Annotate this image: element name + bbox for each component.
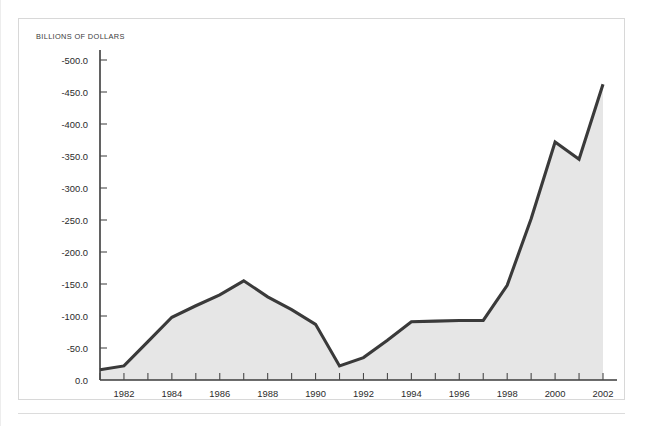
y-axis-tick-label: -350.0 xyxy=(61,151,88,162)
y-tick-group xyxy=(100,60,107,348)
y-axis-tick-label: -200.0 xyxy=(61,247,88,258)
y-axis-tick-label: -450.0 xyxy=(61,87,88,98)
y-axis-tick-label: -50.0 xyxy=(67,343,88,354)
y-axis-tick-label: -300.0 xyxy=(61,183,88,194)
x-axis-tick-label: 1990 xyxy=(305,388,326,399)
chart-plot-area: BILLIONS OF DOLLARS -500.0-450.0-400.0-3… xyxy=(18,18,625,400)
x-axis-tick-label: 1996 xyxy=(449,388,470,399)
y-axis-tick-label: -500.0 xyxy=(61,55,88,66)
x-axis-tick-label: 1986 xyxy=(209,388,230,399)
x-axis-tick-label: 1984 xyxy=(161,388,182,399)
y-axis-tick-label: 0.0 xyxy=(75,375,88,386)
x-axis-tick-label: 1998 xyxy=(497,388,518,399)
page-divider-rule xyxy=(18,413,625,414)
x-axis-tick-label: 1982 xyxy=(114,388,135,399)
x-tick-label-group: 1982198419861988199019921994199619982000… xyxy=(114,388,614,399)
chart-page: BILLIONS OF DOLLARS -500.0-450.0-400.0-3… xyxy=(0,0,647,426)
y-axis-tick-label: -150.0 xyxy=(61,279,88,290)
page-left-edge xyxy=(0,0,1,426)
x-axis-tick-label: 2000 xyxy=(545,388,566,399)
x-axis-tick-label: 1988 xyxy=(257,388,278,399)
x-axis-tick-label: 1992 xyxy=(353,388,374,399)
x-axis-tick-label: 2002 xyxy=(593,388,614,399)
x-axis-tick-label: 1994 xyxy=(401,388,422,399)
y-tick-label-group: -500.0-450.0-400.0-350.0-300.0-250.0-200… xyxy=(61,55,88,386)
area-chart-svg: -500.0-450.0-400.0-350.0-300.0-250.0-200… xyxy=(18,18,625,400)
y-axis-tick-label: -400.0 xyxy=(61,119,88,130)
y-axis-tick-label: -250.0 xyxy=(61,215,88,226)
y-axis-tick-label: -100.0 xyxy=(61,311,88,322)
